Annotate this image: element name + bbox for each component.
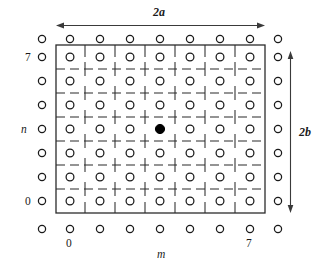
y-axis-min-tick-label: 0 xyxy=(25,196,31,208)
lattice-figure: 2a 2b n m 7 0 0 7 xyxy=(0,0,323,265)
x-axis-label: m xyxy=(157,249,165,261)
x-axis-min-tick-label: 0 xyxy=(66,238,72,250)
height-dimension-label: 2b xyxy=(299,126,311,138)
width-dimension-arrow xyxy=(56,23,265,29)
y-axis-label: n xyxy=(21,124,27,136)
marked-site-dot xyxy=(155,124,164,133)
height-dimension-arrow xyxy=(288,51,294,213)
lattice-diagram xyxy=(0,0,323,265)
x-axis-max-tick-label: 7 xyxy=(246,238,252,250)
width-dimension-label: 2a xyxy=(153,6,165,18)
y-axis-max-tick-label: 7 xyxy=(25,52,31,64)
